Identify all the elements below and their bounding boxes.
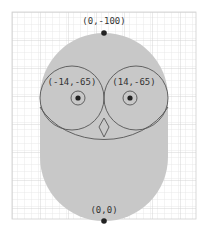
left-eye-label: (-14,-65)	[48, 77, 97, 87]
origin-point	[101, 218, 107, 224]
right-eye-label: (14,-65)	[112, 77, 155, 87]
right-pupil	[127, 95, 132, 100]
top-label: (0,-100)	[82, 16, 125, 26]
owl-diagram: (0,-100) (-14,-65) (14,-65) (0,0)	[0, 0, 205, 235]
left-pupil	[75, 95, 80, 100]
top-point	[101, 30, 107, 36]
origin-label: (0,0)	[90, 205, 117, 215]
